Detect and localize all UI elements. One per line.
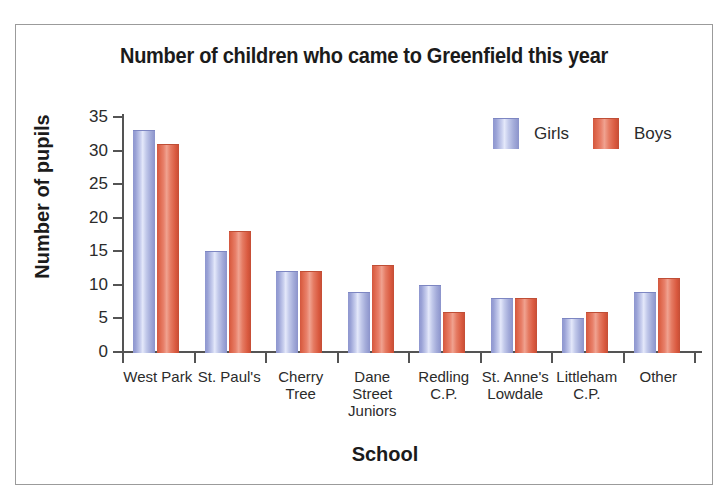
bar-boys-1 [229, 231, 251, 353]
category-label-line: C.P. [543, 385, 631, 402]
x-axis-tick [265, 352, 267, 363]
bar-girls-4 [419, 285, 441, 353]
bar-boys-0 [157, 144, 179, 353]
legend-label: Girls [534, 124, 569, 144]
y-axis-tick [113, 284, 122, 286]
y-axis-tick-label: 20 [68, 209, 108, 226]
x-axis-tick [480, 352, 482, 363]
category-label-line: Other [615, 368, 703, 385]
y-axis-tick-label: 5 [68, 309, 108, 326]
y-axis-tick [113, 150, 122, 152]
y-axis-tick [113, 317, 122, 319]
y-axis-tick [113, 250, 122, 252]
bar-girls-1 [205, 251, 227, 353]
boys-swatch [593, 118, 619, 149]
bar-boys-3 [372, 265, 394, 353]
x-axis-title: School [122, 443, 648, 466]
x-axis-tick [408, 352, 410, 363]
x-axis-tick [337, 352, 339, 363]
y-axis-tick-label: 15 [68, 242, 108, 259]
bar-girls-7 [634, 292, 656, 353]
legend-item-boys[interactable]: Boys [593, 118, 672, 149]
bar-boys-2 [300, 271, 322, 353]
y-axis-tick-label: 25 [68, 175, 108, 192]
x-axis-tick [623, 352, 625, 363]
y-axis-tick-label: 0 [68, 343, 108, 360]
bar-girls-0 [133, 130, 155, 353]
legend-label: Boys [634, 124, 672, 144]
girls-swatch [493, 118, 519, 149]
bar-boys-6 [586, 312, 608, 353]
chart-title: Number of children who came to Greenfiel… [44, 44, 684, 69]
x-axis-tick [551, 352, 553, 363]
bar-girls-2 [276, 271, 298, 353]
y-axis-tick [113, 183, 122, 185]
y-axis-tick [113, 351, 122, 353]
y-axis-tick-labels: 05101520253035 [48, 0, 108, 499]
bar-boys-5 [515, 298, 537, 353]
x-axis-tick [122, 352, 124, 363]
y-axis-tick-label: 35 [68, 108, 108, 125]
legend-item-girls[interactable]: Girls [493, 118, 569, 149]
bar-girls-5 [491, 298, 513, 353]
x-axis-tick [694, 352, 696, 363]
category-label-line: Juniors [329, 402, 417, 419]
x-axis-tick [194, 352, 196, 363]
y-axis-tick [113, 217, 122, 219]
y-axis-tick-label: 30 [68, 142, 108, 159]
bar-girls-3 [348, 292, 370, 353]
bar-boys-4 [443, 312, 465, 353]
x-axis-category-label: Other [615, 368, 703, 385]
chart-figure: Number of children who came to Greenfiel… [0, 0, 728, 499]
y-axis-tick [113, 116, 122, 118]
bar-boys-7 [658, 278, 680, 353]
bar-girls-6 [562, 318, 584, 353]
y-axis-tick-label: 10 [68, 276, 108, 293]
y-axis-line [122, 114, 124, 354]
